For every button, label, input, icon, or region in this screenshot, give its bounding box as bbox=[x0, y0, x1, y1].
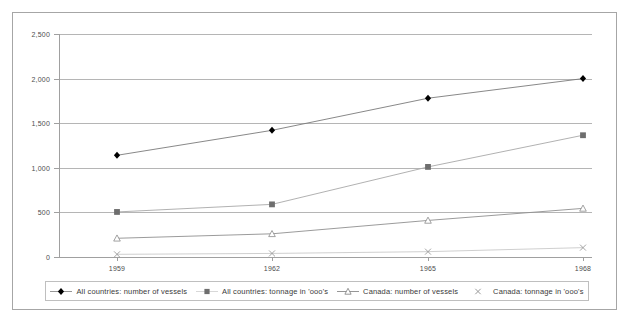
data-point bbox=[580, 75, 586, 82]
data-point bbox=[425, 95, 431, 102]
legend-label: All countries: tonnage in 'ooo's bbox=[222, 287, 328, 296]
data-point bbox=[114, 209, 120, 215]
filled-diamond-icon bbox=[50, 287, 72, 296]
y-axis-label-1000: 1,000 bbox=[31, 164, 50, 171]
x-axis-label-1959: 1959 bbox=[109, 265, 125, 272]
legend-item-all-countries-vessels[interactable]: All countries: number of vessels bbox=[48, 287, 189, 296]
y-axis-label-500: 500 bbox=[38, 209, 50, 216]
data-point bbox=[114, 152, 120, 159]
legend-label: Canada: tonnage in 'ooo's bbox=[493, 287, 583, 296]
data-point bbox=[425, 164, 431, 170]
legend-item-canada-tonnage[interactable]: Canada: tonnage in 'ooo's bbox=[465, 287, 585, 296]
data-point bbox=[269, 201, 275, 207]
x-axis-label-1962: 1962 bbox=[264, 265, 280, 272]
data-point bbox=[580, 132, 586, 138]
x-tick-1965 bbox=[428, 257, 429, 261]
y-tick-0 bbox=[54, 257, 59, 258]
gridline-0 bbox=[59, 257, 592, 258]
data-point bbox=[269, 127, 275, 134]
y-axis-label-0: 0 bbox=[46, 254, 50, 261]
plot-area: 2,500 2,000 1,500 1,000 500 0 1959 1962 … bbox=[59, 34, 592, 257]
y-axis-label-2500: 2,500 bbox=[31, 31, 50, 38]
chart-figure: 2,500 2,000 1,500 1,000 500 0 1959 1962 … bbox=[12, 12, 617, 310]
x-axis-label-1968: 1968 bbox=[575, 265, 591, 272]
x-tick-1959 bbox=[117, 257, 118, 261]
y-axis-label-1500: 1,500 bbox=[31, 120, 50, 127]
open-triangle-icon bbox=[337, 287, 359, 296]
legend-item-canada-vessels[interactable]: Canada: number of vessels bbox=[335, 287, 460, 296]
x-tick-1962 bbox=[272, 257, 273, 261]
series-2 bbox=[114, 205, 587, 241]
series-layer bbox=[59, 34, 592, 257]
x-axis-label-1965: 1965 bbox=[420, 265, 436, 272]
filled-square-icon bbox=[196, 287, 218, 296]
y-axis-label-2000: 2,000 bbox=[31, 75, 50, 82]
legend-label: All countries: number of vessels bbox=[76, 287, 187, 296]
legend-label: Canada: number of vessels bbox=[363, 287, 458, 296]
series-0 bbox=[114, 75, 586, 159]
x-tick-1968 bbox=[583, 257, 584, 261]
legend-item-all-countries-tonnage[interactable]: All countries: tonnage in 'ooo's bbox=[194, 287, 330, 296]
cross-x-icon bbox=[467, 287, 489, 296]
chart-legend: All countries: number of vessels All cou… bbox=[45, 281, 589, 301]
series-3 bbox=[114, 245, 586, 258]
